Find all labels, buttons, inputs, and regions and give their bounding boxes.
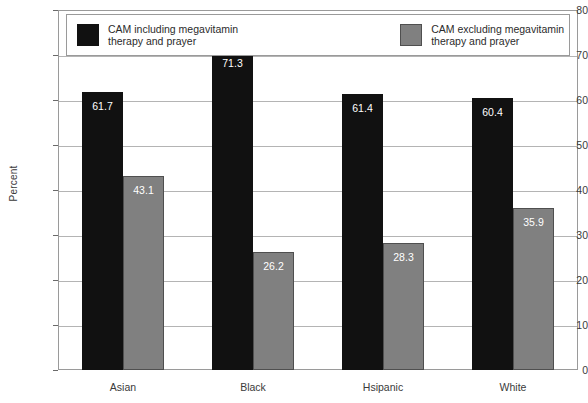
y-tick-label: 60 [538, 94, 588, 106]
y-tick-label: 40 [538, 184, 588, 196]
y-tick-label: 0 [538, 364, 588, 376]
y-tick-mark [53, 190, 58, 191]
y-tick-label: 20 [538, 274, 588, 286]
x-tick-label: Asian [58, 381, 188, 393]
gridline [59, 191, 577, 192]
y-tick-label: 30 [538, 229, 588, 241]
legend-swatch-gray-icon [400, 24, 422, 46]
y-tick-label: 10 [538, 319, 588, 331]
y-tick-mark [53, 100, 58, 101]
gridline [59, 146, 577, 147]
gridline [59, 101, 577, 102]
y-tick-mark [53, 145, 58, 146]
y-tick-mark [53, 325, 58, 326]
x-tick-label: Hsipanic [318, 381, 448, 393]
y-tick-mark [53, 55, 58, 56]
plot-area [58, 10, 578, 370]
gridline [59, 326, 577, 327]
y-tick-mark [53, 10, 58, 11]
chart-legend: CAM including megavitamin therapy and pr… [66, 14, 570, 56]
y-tick-mark [53, 370, 58, 371]
x-tick-label: White [448, 381, 578, 393]
y-tick-mark [53, 280, 58, 281]
legend-item-including: CAM including megavitamin therapy and pr… [77, 23, 238, 48]
gridline [59, 281, 577, 282]
x-tick-label: Black [188, 381, 318, 393]
y-tick-label: 50 [538, 139, 588, 151]
y-tick-mark [53, 235, 58, 236]
legend-item-excluding: CAM excluding megavitamin therapy and pr… [400, 23, 564, 48]
legend-label-including: CAM including megavitamin therapy and pr… [108, 23, 238, 48]
y-axis-title: Percent [8, 149, 19, 219]
bar-chart: Percent 01020304050607080 61.743.171.326… [0, 0, 588, 403]
legend-swatch-black-icon [77, 24, 99, 46]
legend-label-excluding: CAM excluding megavitamin therapy and pr… [431, 23, 564, 48]
gridline [59, 236, 577, 237]
